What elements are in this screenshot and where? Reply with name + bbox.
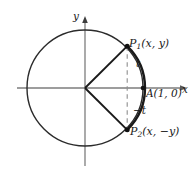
- y-axis-arrow-icon: [82, 16, 88, 23]
- radius-to-p2: [85, 88, 127, 130]
- label-p2-coords: (x, −y): [142, 125, 179, 138]
- label-point-a: A(1, 0): [146, 88, 182, 99]
- point-marker-p2: [125, 127, 130, 132]
- figure-canvas: [0, 0, 193, 169]
- label-y-axis: y: [73, 11, 79, 22]
- point-marker-a: [141, 86, 146, 91]
- label-arc-negative-t: −t: [133, 105, 146, 116]
- radius-to-p1: [85, 46, 127, 88]
- label-a-letter: A: [146, 87, 154, 99]
- label-arc-t: t: [136, 58, 140, 69]
- label-x-axis: x: [182, 84, 188, 95]
- label-point-p1: P1(x, y): [129, 38, 169, 51]
- unit-circle-figure: P1(x, y) P2(x, −y) A(1, 0) t −t x y: [0, 0, 193, 169]
- label-point-p2: P2(x, −y): [130, 126, 179, 139]
- label-p1-coords: (x, y): [141, 37, 169, 50]
- label-a-coords: (1, 0): [154, 87, 182, 99]
